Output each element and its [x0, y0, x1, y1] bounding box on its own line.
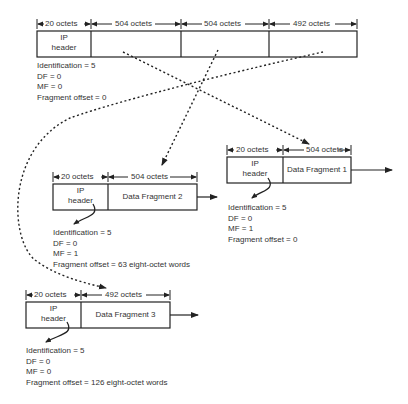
orig-fields: Identification = 5 DF = 0 MF = 0 Fragmen…: [37, 61, 106, 103]
frag3-field-df: DF = 0: [26, 357, 167, 368]
frag3-field-offset: Fragment offset = 126 eight-octet words: [26, 378, 167, 389]
orig-width-seg1: 504 octets: [115, 19, 152, 29]
dashed-map-fragment-1: [123, 52, 309, 144]
frag2-data-cell: Data Fragment 2: [108, 192, 197, 201]
frag3-field-id: Identification = 5: [26, 346, 167, 357]
frag1-field-offset: Fragment offset = 0: [228, 235, 297, 246]
frag2-field-offset: Fragment offset = 63 eight-octet words: [53, 260, 190, 271]
orig-width-header: 20 octets: [45, 19, 77, 29]
orig-header-line2: header: [37, 43, 91, 53]
dashed-map-fragment-2: [162, 50, 218, 165]
frag2-header-line2: header: [53, 196, 108, 206]
frag3-header-cell: IP header: [26, 304, 81, 324]
orig-field-offset: Fragment offset = 0: [37, 93, 106, 104]
frag1-field-id: Identification = 5: [228, 203, 297, 214]
frag3-fields: Identification = 5 DF = 0 MF = 0 Fragmen…: [26, 346, 167, 388]
frag2-width-data: 504 octets: [131, 172, 168, 182]
frag3-data-cell: Data Fragment 3: [81, 310, 170, 319]
frag1-width-data: 504 octets: [306, 145, 343, 155]
orig-field-mf: MF = 0: [37, 82, 106, 93]
orig-width-seg2: 504 octets: [204, 19, 241, 29]
orig-width-seg3: 492 octets: [293, 19, 330, 29]
frag1-data-cell: Data Fragment 1: [283, 165, 351, 174]
frag3-header-line2: header: [26, 314, 81, 324]
frag1-header-cell: IP header: [227, 159, 283, 179]
frag2-width-header: 20 octets: [61, 172, 93, 182]
frag3-width-header: 20 octets: [34, 290, 66, 300]
orig-header-line1: IP: [37, 33, 91, 43]
frag2-fields: Identification = 5 DF = 0 MF = 1 Fragmen…: [53, 228, 190, 270]
orig-field-id: Identification = 5: [37, 61, 106, 72]
orig-field-df: DF = 0: [37, 72, 106, 83]
frag1-header-line2: header: [227, 169, 283, 179]
frag1-width-header: 20 octets: [236, 145, 268, 155]
frag1-field-df: DF = 0: [228, 214, 297, 225]
orig-header-cell: IP header: [37, 33, 91, 53]
frag3-width-data: 492 octets: [105, 290, 142, 300]
frag1-field-mf: MF = 1: [228, 224, 297, 235]
frag2-header-line1: IP: [53, 186, 108, 196]
frag2-field-df: DF = 0: [53, 239, 190, 250]
frag1-header-line1: IP: [227, 159, 283, 169]
frag2-header-cell: IP header: [53, 186, 108, 206]
frag1-fields: Identification = 5 DF = 0 MF = 1 Fragmen…: [228, 203, 297, 245]
frag2-field-mf: MF = 1: [53, 249, 190, 260]
frag3-field-mf: MF = 0: [26, 367, 167, 378]
frag2-field-id: Identification = 5: [53, 228, 190, 239]
frag3-header-line1: IP: [26, 304, 81, 314]
